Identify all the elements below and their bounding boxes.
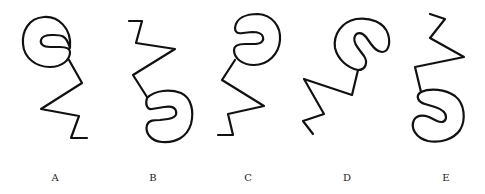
figure-e: [413, 14, 464, 142]
figure-label-b: B: [143, 172, 163, 183]
zigzag-line-c: [218, 60, 264, 135]
figure-label-a: A: [45, 172, 65, 183]
figure-d: [303, 19, 389, 134]
zigzag-line-a: [41, 60, 87, 138]
figure-c: [218, 14, 280, 135]
hook-shape-b: [146, 91, 192, 142]
figure-label-c: C: [238, 172, 258, 183]
hook-shape-c: [234, 14, 280, 65]
zigzag-line-b: [129, 21, 175, 97]
hook-shape-a: [23, 17, 70, 67]
hook-shape-e: [413, 90, 464, 142]
hook-shape-d: [335, 19, 389, 70]
zigzag-line-d: [303, 70, 358, 134]
figure-label-e: E: [436, 172, 456, 183]
zigzag-line-e: [415, 14, 464, 92]
figure-a: [23, 17, 87, 138]
figure-label-d: D: [337, 172, 357, 183]
figure-b: [129, 21, 192, 142]
figures-canvas: [0, 0, 485, 194]
